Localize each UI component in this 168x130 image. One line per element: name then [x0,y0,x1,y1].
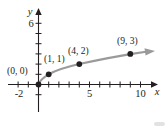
point-label-1-1: (1, 1) [44,53,65,65]
point-label-4-2: (4, 2) [68,45,89,57]
x-axis-label: x [154,86,160,97]
data-point-1-1 [46,71,52,77]
point-label-9-3: (9, 3) [117,35,138,47]
x-tick-label-10: 10 [135,88,146,99]
data-point-0-0 [36,82,42,88]
y-axis-label: y [27,6,33,17]
point-label-0-0: (0, 0) [7,65,28,77]
curve-arrow-icon [145,48,156,55]
x-tick-label-neg2: -2 [15,88,24,99]
plot-area: y x -2 5 10 6 (0, 0) (1, 1) (4, 2) (9, 3… [0,0,168,130]
y-axis-arrow-icon [35,8,41,15]
y-tick-label-6: 6 [28,18,33,29]
x-tick-label-5: 5 [87,88,92,99]
corner-artifact [154,122,165,126]
data-point-4-2 [76,61,82,67]
data-point-9-3 [127,51,133,57]
square-root-function-graph: y x -2 5 10 6 (0, 0) (1, 1) (4, 2) (9, 3… [0,0,168,130]
